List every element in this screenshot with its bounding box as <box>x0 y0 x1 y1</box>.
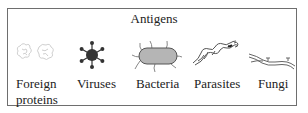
virus-icon <box>77 40 107 70</box>
label-parasites: Parasites <box>194 76 240 92</box>
label-viruses: Viruses <box>77 76 116 92</box>
label-line-2: proteins <box>16 92 58 108</box>
label-foreign-proteins: Foreign proteins <box>16 76 58 108</box>
label-bacteria: Bacteria <box>136 76 179 92</box>
bacterium-icon <box>130 39 186 73</box>
diagram-title: Antigens <box>0 11 308 27</box>
label-line-1: Foreign <box>16 76 58 92</box>
fungus-icon <box>247 44 299 70</box>
foreign-proteins-icon <box>16 40 58 62</box>
parasite-icon <box>190 39 242 69</box>
label-fungi: Fungi <box>258 76 288 92</box>
